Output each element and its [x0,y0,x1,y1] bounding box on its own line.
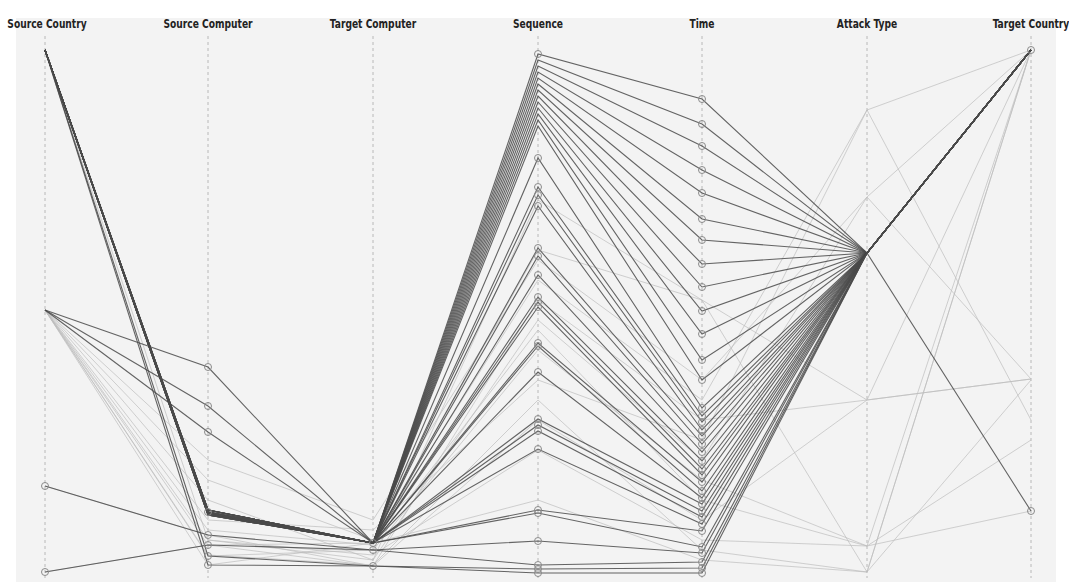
plot-svg [0,0,1065,588]
parallel-coordinates-chart: Source Country Source Computer Target Co… [0,0,1065,588]
